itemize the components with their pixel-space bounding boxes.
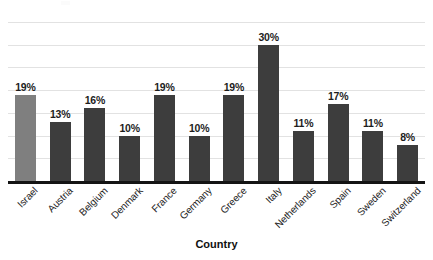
- bar-value-greece: 19%: [214, 81, 254, 93]
- bar-netherlands[interactable]: [293, 131, 314, 181]
- category-label-greece: Greece: [218, 185, 249, 216]
- gridline-35: [8, 22, 425, 23]
- category-label-israel: Israel: [16, 185, 41, 210]
- bar-greece[interactable]: [223, 95, 244, 181]
- bar-value-netherlands: 11%: [283, 117, 323, 129]
- category-labels-group: IsraelAustriaBelgiumDenmarkFranceGermany…: [0, 185, 433, 237]
- x-axis-line: [8, 181, 425, 184]
- category-label-austria: Austria: [46, 185, 75, 214]
- bar-germany[interactable]: [189, 136, 210, 181]
- category-label-germany: Germany: [178, 185, 214, 221]
- bar-value-denmark: 10%: [110, 122, 150, 134]
- category-label-spain: Spain: [327, 185, 353, 211]
- bar-value-france: 19%: [144, 81, 184, 93]
- category-label-belgium: Belgium: [77, 185, 110, 218]
- x-axis-title: Country: [0, 238, 433, 250]
- bar-israel[interactable]: [15, 95, 36, 181]
- plot-area: 19%13%16%10%19%10%19%30%11%17%11%8%: [0, 0, 433, 183]
- bar-value-belgium: 16%: [75, 94, 115, 106]
- bar-denmark[interactable]: [119, 136, 140, 181]
- bar-belgium[interactable]: [84, 108, 105, 181]
- category-label-sweden: Sweden: [355, 185, 388, 218]
- bar-value-spain: 17%: [318, 90, 358, 102]
- gridline-30: [8, 45, 425, 46]
- bar-value-switzerland: 8%: [388, 131, 428, 143]
- gridline-25: [8, 67, 425, 68]
- bar-france[interactable]: [154, 95, 175, 181]
- category-label-italy: Italy: [263, 185, 283, 205]
- bar-value-italy: 30%: [249, 31, 289, 43]
- bar-value-sweden: 11%: [353, 117, 393, 129]
- bar-switzerland[interactable]: [397, 145, 418, 181]
- bar-value-austria: 13%: [40, 108, 80, 120]
- bar-chart: 19%13%16%10%19%10%19%30%11%17%11%8% Isra…: [0, 0, 433, 260]
- bar-spain[interactable]: [328, 104, 349, 181]
- bar-value-germany: 10%: [179, 122, 219, 134]
- bar-austria[interactable]: [50, 122, 71, 181]
- category-label-denmark: Denmark: [108, 185, 144, 221]
- bar-sweden[interactable]: [362, 131, 383, 181]
- category-label-france: France: [150, 185, 179, 214]
- bar-italy[interactable]: [258, 45, 279, 181]
- bar-value-israel: 19%: [5, 81, 45, 93]
